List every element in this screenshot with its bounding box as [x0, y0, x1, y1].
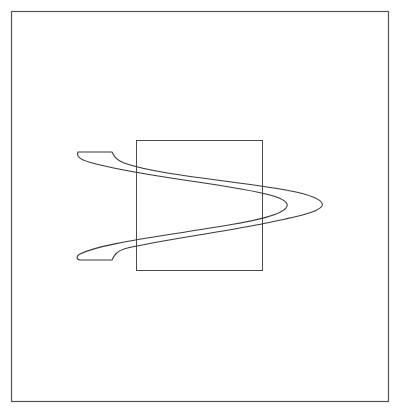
figure-canvas: [0, 0, 401, 410]
background: [0, 0, 401, 410]
